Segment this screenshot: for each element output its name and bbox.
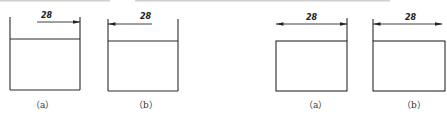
- figure-2b: 28 （b）: [373, 13, 445, 110]
- figure-caption: （a）: [31, 100, 54, 110]
- figure-1b: 28 （b）: [108, 12, 178, 110]
- figure-caption: （b）: [134, 100, 158, 110]
- dimension-label: 28: [41, 11, 53, 20]
- dimensioning-diagram: 28 （a） 28 （b） 28 （a） 28 （b）: [0, 0, 447, 117]
- cropped-text-strip: [0, 0, 390, 2]
- figure-2a: 28 （a）: [276, 13, 347, 110]
- rectangle: [276, 41, 347, 91]
- figure-1a: 28 （a）: [10, 11, 80, 110]
- figure-caption: （b）: [402, 100, 426, 110]
- rectangle: [373, 41, 445, 91]
- dimension-label: 28: [140, 12, 152, 21]
- dimension-label: 28: [306, 13, 318, 22]
- figure-caption: （a）: [304, 100, 327, 110]
- dimension-label: 28: [405, 13, 417, 22]
